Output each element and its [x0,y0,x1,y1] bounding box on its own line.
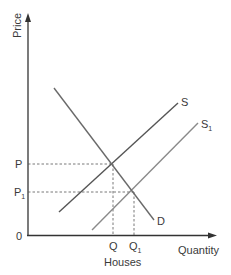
demand-curve-d [54,88,154,220]
y-axis-arrow-icon [25,13,31,22]
x-axis-label: Quantity [178,244,219,256]
curve-label-s: S [181,96,188,108]
supply-demand-diagram: Price Quantity Houses 0 P P1 Q Q1 S S1 D [0,0,231,275]
curve-label-s1: S1 [201,118,212,132]
price-tick-p: P [15,158,22,170]
p1-main: P [14,186,21,198]
supply-curve-s1 [92,123,198,230]
curve-label-d: D [157,215,165,227]
axes [25,13,217,239]
price-tick-p1: P1 [14,186,25,200]
caption-houses: Houses [104,256,142,268]
p1-sub: 1 [21,193,25,200]
s1-main: S [201,118,208,130]
s1-sub: 1 [208,125,212,132]
x-axis-arrow-icon [208,233,217,239]
quantity-tick-q1: Q1 [129,240,142,254]
y-axis-label: Price [11,13,23,38]
guide-lines [28,164,134,235]
origin-label: 0 [16,230,22,242]
supply-curve-s [59,103,178,212]
quantity-tick-q: Q [109,240,118,252]
q1-sub: 1 [138,247,142,254]
